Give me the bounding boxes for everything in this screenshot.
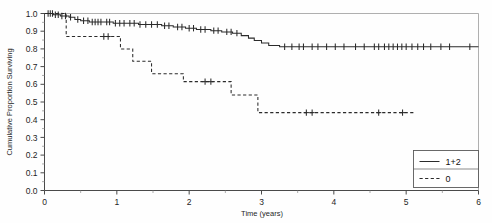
x-tick-label: 4 — [331, 197, 336, 207]
y-axis-title: Cumulative Proportion Surviving — [5, 48, 14, 155]
y-tick-label: 0.3 — [26, 133, 38, 143]
y-tick-label: 0.8 — [26, 44, 38, 54]
x-tick-label: 0 — [42, 197, 47, 207]
chart-legend[interactable]: 1+20 — [414, 151, 479, 188]
y-tick-label: 1.0 — [26, 9, 38, 19]
x-tick-label: 2 — [187, 197, 192, 207]
y-tick-label: 0.9 — [26, 26, 38, 36]
survival-plot: 0123456 0.00.10.20.30.40.50.60.70.80.91.… — [0, 0, 492, 223]
legend-label: 0 — [446, 174, 451, 184]
y-tick-label: 0.2 — [26, 150, 38, 160]
x-tick-label: 3 — [259, 197, 264, 207]
y-tick-label: 0.6 — [26, 79, 38, 89]
y-tick-label: 0.4 — [26, 115, 38, 125]
chart-background — [0, 0, 492, 223]
x-tick-label: 1 — [114, 197, 119, 207]
x-axis-title: Time (years) — [241, 209, 283, 218]
y-tick-label: 0.7 — [26, 62, 38, 72]
y-tick-label: 0.0 — [26, 186, 38, 196]
y-tick-label: 0.5 — [26, 97, 38, 107]
x-tick-label: 5 — [404, 197, 409, 207]
y-tick-label: 0.1 — [26, 168, 38, 178]
x-tick-label: 6 — [476, 197, 481, 207]
legend-label: 1+2 — [446, 157, 461, 167]
kaplan-meier-chart-panel: 0123456 0.00.10.20.30.40.50.60.70.80.91.… — [0, 0, 492, 223]
